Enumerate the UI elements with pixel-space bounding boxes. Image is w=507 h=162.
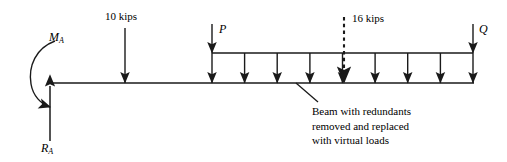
label-16-kips: 16 kips bbox=[352, 12, 384, 25]
label-10-kips: 10 kips bbox=[105, 10, 137, 23]
moment-subscript: A bbox=[59, 36, 64, 45]
label-force-reaction: RA bbox=[41, 141, 53, 156]
annotation-line-2: removed and replaced bbox=[312, 119, 411, 134]
annotation-leader-line bbox=[296, 83, 318, 102]
annotation-text-block: Beam with redundants removed and replace… bbox=[312, 104, 411, 148]
distributed-load-arrows bbox=[212, 53, 473, 83]
label-virtual-load-p: P bbox=[219, 22, 226, 36]
annotation-line-1: Beam with redundants bbox=[312, 104, 411, 119]
beam-free-body-diagram: 10 kips 16 kips P Q MA RA Beam with redu… bbox=[0, 0, 507, 162]
reaction-subscript: A bbox=[48, 147, 53, 156]
diagram-canvas bbox=[0, 0, 507, 162]
moment-symbol: M bbox=[49, 30, 59, 44]
label-moment-reaction: MA bbox=[49, 30, 64, 45]
moment-reaction-arc bbox=[30, 41, 55, 107]
annotation-line-3: with virtual loads bbox=[312, 133, 411, 148]
label-virtual-load-q: Q bbox=[479, 22, 488, 36]
